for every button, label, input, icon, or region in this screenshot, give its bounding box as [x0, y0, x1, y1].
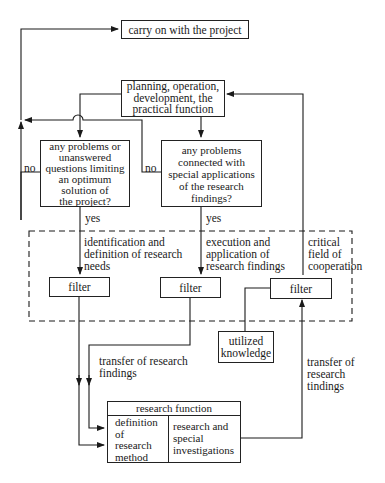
no-left-label: no [24, 162, 36, 174]
carry-on-box: carry on with the project [121, 20, 249, 39]
planning-box: planning, operation, development, the pr… [121, 80, 225, 117]
decision-right-box: any problems connected with special appl… [161, 140, 262, 207]
decision-left-box: any problems or unanswered questions lim… [40, 140, 130, 207]
critical-field-label: critical field of cooperation [308, 236, 362, 272]
filter-left-label: filter [68, 281, 90, 293]
identification-label: identification and definition of researc… [84, 236, 182, 272]
research-function-title: research function [108, 402, 240, 416]
research-investigations-cell: research and special investigations [169, 415, 240, 462]
transfer-left-label: transfer of research findings [99, 355, 188, 379]
planning-label: planning, operation, development, the pr… [127, 81, 219, 116]
research-function-box: research function definition of research… [107, 401, 241, 463]
filter-left-box: filter [49, 277, 110, 297]
no-right-label: no [145, 162, 157, 174]
utilized-knowledge-label: utilized knowledge [221, 335, 271, 359]
decision-right-label: any problems connected with special appl… [168, 144, 254, 204]
carry-on-label: carry on with the project [128, 24, 241, 36]
transfer-right-label: transfer of research tindings [307, 356, 355, 392]
filter-right-label: filter [290, 283, 312, 295]
execution-label: execution and application of research fi… [206, 236, 285, 272]
definition-method-cell: definition of research method [108, 415, 169, 462]
filter-middle-label: filter [179, 282, 201, 294]
yes-left-label: yes [85, 212, 100, 224]
filter-middle-box: filter [160, 277, 221, 298]
yes-right-label: yes [206, 212, 221, 224]
utilized-knowledge-box: utilized knowledge [218, 331, 274, 363]
filter-right-box: filter [270, 278, 332, 299]
decision-left-label: any problems or unanswered questions lim… [45, 141, 124, 207]
